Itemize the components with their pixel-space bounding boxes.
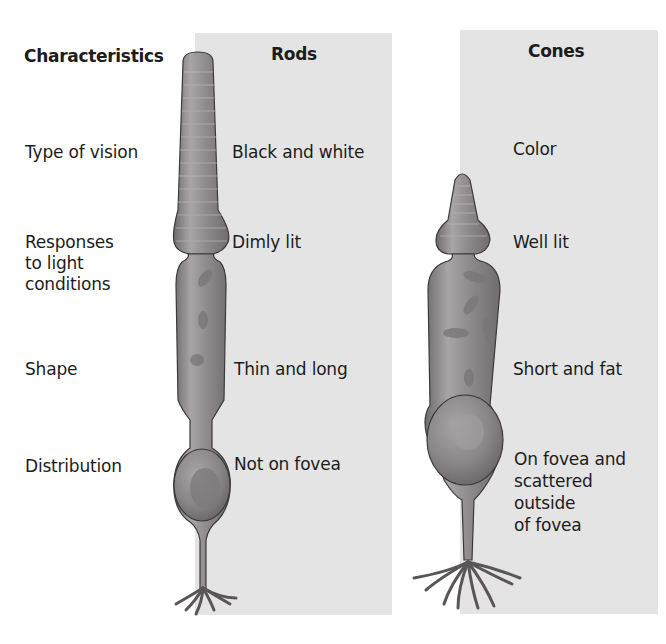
rods-distribution: Not on fovea [234, 454, 341, 475]
cones-type-of-vision: Color [513, 139, 556, 160]
rods-shape: Thin and long [234, 359, 348, 380]
row-label-responses-line2: to light [25, 253, 84, 274]
row-label-responses-line3: conditions [25, 274, 110, 295]
rods-light-conditions: Dimly lit [232, 232, 301, 253]
cones-distribution-line3: outside [514, 493, 575, 514]
cones-shape: Short and fat [513, 359, 622, 380]
row-label-shape: Shape [25, 359, 77, 380]
row-label-type-of-vision: Type of vision [25, 142, 138, 163]
row-label-distribution: Distribution [25, 456, 122, 477]
cones-distribution-line4: of fovea [514, 515, 582, 536]
rods-type-of-vision: Black and white [232, 142, 364, 163]
cell-illustrations [0, 0, 666, 644]
cones-light-conditions: Well lit [513, 232, 569, 253]
rod-cell-icon [174, 52, 237, 614]
cones-distribution-line2: scattered [514, 471, 592, 492]
row-label-responses-line1: Responses [25, 232, 114, 253]
cones-distribution-line1: On fovea and [514, 449, 626, 470]
cone-cell-icon [414, 174, 520, 608]
